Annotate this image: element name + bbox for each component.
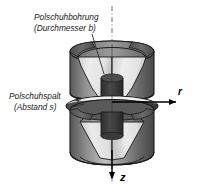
- bore-label-line2: (Durchmesser b): [34, 23, 96, 33]
- figure-canvas: r z Polschuhbohrung (Durchmesser b) Pols…: [0, 0, 197, 196]
- phi-symbol: φ: [76, 93, 81, 103]
- z-axis-label: z: [119, 171, 126, 183]
- bore-label-line1: Polschuhbohrung: [34, 12, 99, 22]
- gap-label-line1: Polschuhspalt: [9, 91, 61, 101]
- pole-shoe-diagram: r z Polschuhbohrung (Durchmesser b) Pols…: [0, 0, 197, 196]
- gap-label-line2: (Abstand s): [14, 102, 57, 112]
